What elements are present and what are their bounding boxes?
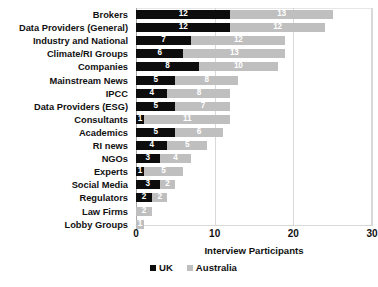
x-axis-title: Interview Participants bbox=[136, 245, 372, 256]
legend-item-uk[interactable]: UK bbox=[150, 262, 173, 273]
category-label: IPCC bbox=[0, 89, 128, 99]
bar-value-label: 10 bbox=[199, 61, 278, 71]
bar-value-label: 8 bbox=[175, 75, 238, 85]
bar-row: 111 bbox=[136, 115, 230, 124]
category-label: NGOs bbox=[0, 154, 128, 164]
bar-value-label: 13 bbox=[230, 9, 332, 19]
bar-value-label: 5 bbox=[144, 166, 183, 176]
bar-value-label: 5 bbox=[136, 127, 175, 137]
legend-swatch-icon bbox=[150, 265, 156, 271]
bar-segment-australia: 10 bbox=[199, 62, 278, 71]
bar-row: 32 bbox=[136, 180, 175, 189]
bar-segment-uk: 1 bbox=[136, 115, 144, 124]
bar-value-label: 3 bbox=[136, 179, 160, 189]
bar-segment-uk: 3 bbox=[136, 154, 160, 163]
bar-value-label: 1 bbox=[136, 166, 144, 176]
category-label: Mainstream News bbox=[0, 76, 128, 86]
x-tick-label: 0 bbox=[133, 228, 139, 239]
bar-segment-australia: 4 bbox=[160, 154, 191, 163]
bar-segment-uk: 5 bbox=[136, 76, 175, 85]
bar-segment-uk: 5 bbox=[136, 128, 175, 137]
bar-value-label: 11 bbox=[144, 114, 231, 124]
bar-value-label: 12 bbox=[136, 9, 230, 19]
x-axis-tick-labels: 0102030 bbox=[136, 228, 372, 242]
bar-segment-australia: 5 bbox=[167, 141, 206, 150]
category-label: Brokers bbox=[0, 10, 128, 20]
bar-value-label: 12 bbox=[230, 22, 324, 32]
category-label: RI news bbox=[0, 141, 128, 151]
bar-value-label: 12 bbox=[136, 22, 230, 32]
bar-segment-uk: 1 bbox=[136, 167, 144, 176]
bar-row: 712 bbox=[136, 36, 285, 45]
bar-segment-uk: 6 bbox=[136, 49, 183, 58]
bar-row: 58 bbox=[136, 76, 238, 85]
bar-segment-uk: 12 bbox=[136, 23, 230, 32]
bar-value-label: 7 bbox=[175, 101, 230, 111]
category-axis-labels: BrokersData Providers (General)Industry … bbox=[0, 8, 132, 226]
bar-row: 613 bbox=[136, 49, 285, 58]
bar-segment-australia: 2 bbox=[136, 207, 152, 216]
bar-segment-uk: 8 bbox=[136, 62, 199, 71]
category-label: Data Providers (ESG) bbox=[0, 102, 128, 112]
category-label: Industry and National bbox=[0, 36, 128, 46]
bar-value-label: 2 bbox=[152, 192, 168, 202]
bar-segment-australia: 5 bbox=[144, 167, 183, 176]
bar-row: 15 bbox=[136, 167, 183, 176]
chart-legend: UKAustralia bbox=[136, 262, 372, 273]
bar-value-label: 1 bbox=[136, 114, 144, 124]
bar-segment-australia: 11 bbox=[144, 115, 231, 124]
bar-row: 2 bbox=[136, 207, 152, 216]
bar-segment-uk: 7 bbox=[136, 36, 191, 45]
bar-segment-uk: 12 bbox=[136, 10, 230, 19]
gridline-20 bbox=[293, 8, 294, 226]
category-label: Academics bbox=[0, 128, 128, 138]
bar-row: 22 bbox=[136, 193, 167, 202]
bar-segment-australia: 2 bbox=[152, 193, 168, 202]
bar-segment-uk: 4 bbox=[136, 141, 167, 150]
legend-item-australia[interactable]: Australia bbox=[187, 262, 237, 273]
bar-value-label: 4 bbox=[136, 88, 167, 98]
gridline-30 bbox=[372, 8, 373, 226]
bar-value-label: 6 bbox=[136, 48, 183, 58]
bar-row: 57 bbox=[136, 102, 230, 111]
x-tick-label: 20 bbox=[288, 228, 299, 239]
bar-value-label: 3 bbox=[136, 153, 160, 163]
bar-segment-australia: 7 bbox=[175, 102, 230, 111]
bar-segment-australia: 12 bbox=[230, 23, 324, 32]
bar-segment-australia: 8 bbox=[175, 76, 238, 85]
category-label: Law Firms bbox=[0, 207, 128, 217]
bar-value-label: 6 bbox=[175, 127, 222, 137]
bar-segment-australia: 6 bbox=[175, 128, 222, 137]
bar-value-label: 8 bbox=[167, 88, 230, 98]
bar-value-label: 5 bbox=[136, 101, 175, 111]
category-label: Social Media bbox=[0, 180, 128, 190]
bar-segment-uk: 2 bbox=[136, 193, 152, 202]
legend-swatch-icon bbox=[187, 265, 193, 271]
category-label: Companies bbox=[0, 62, 128, 72]
plot-area: 1213121271261381058485711156453415322221 bbox=[136, 8, 372, 226]
bar-segment-uk: 5 bbox=[136, 102, 175, 111]
bar-value-label: 2 bbox=[160, 179, 176, 189]
legend-label: UK bbox=[159, 262, 173, 273]
x-tick-label: 10 bbox=[209, 228, 220, 239]
bar-value-label: 4 bbox=[160, 153, 191, 163]
bar-value-label: 13 bbox=[183, 48, 285, 58]
bar-value-label: 2 bbox=[136, 206, 152, 216]
bar-segment-australia: 8 bbox=[167, 89, 230, 98]
bar-segment-uk: 3 bbox=[136, 180, 160, 189]
bar-segment-australia: 12 bbox=[191, 36, 285, 45]
category-label: Lobby Groups bbox=[0, 220, 128, 230]
category-label: Climate/RI Groups bbox=[0, 49, 128, 59]
bar-row: 34 bbox=[136, 154, 191, 163]
bar-value-label: 7 bbox=[136, 35, 191, 45]
legend-label: Australia bbox=[196, 262, 237, 273]
category-label: Consultants bbox=[0, 115, 128, 125]
bar-value-label: 8 bbox=[136, 61, 199, 71]
bar-value-label: 2 bbox=[136, 192, 152, 202]
category-label: Regulators bbox=[0, 193, 128, 203]
bar-segment-australia: 13 bbox=[183, 49, 285, 58]
bar-value-label: 5 bbox=[167, 140, 206, 150]
bar-segment-uk: 4 bbox=[136, 89, 167, 98]
bar-segment-australia: 13 bbox=[230, 10, 332, 19]
